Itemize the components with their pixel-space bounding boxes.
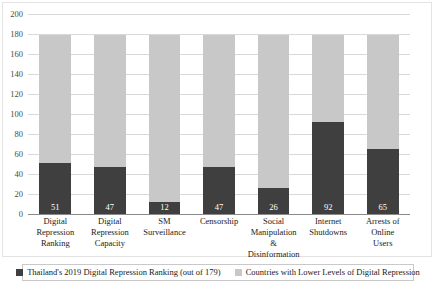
x-axis-label-5: InternetShutdowns (301, 216, 356, 260)
x-axis-label-line: Ranking (29, 238, 82, 249)
x-axis-label-0: DigitalRepressionRanking (28, 216, 83, 260)
bar-segment-lower-repression[interactable] (94, 35, 126, 167)
x-axis-label-line: Users (356, 238, 409, 249)
x-axis-label-line: Shutdowns (302, 227, 355, 238)
bar-slot: 51 (28, 14, 83, 214)
bar-slot: 12 (137, 14, 192, 214)
x-axis-label-line: SM (138, 216, 191, 227)
bar-stack[interactable]: 92 (312, 35, 344, 214)
bar-stack[interactable]: 47 (203, 35, 235, 214)
bar-segment-thailand-ranking[interactable]: 92 (312, 122, 344, 214)
y-axis-tick-100: 100 (10, 110, 23, 119)
bar-segment-lower-repression[interactable] (367, 35, 399, 149)
x-axis-label-line: Social (247, 216, 300, 227)
bar-segment-thailand-ranking[interactable]: 26 (258, 188, 290, 214)
bar-slot: 26 (246, 14, 301, 214)
bar-segment-lower-repression[interactable] (312, 35, 344, 122)
x-axis-label-3: Censorship (192, 216, 247, 260)
bar-segment-thailand-ranking[interactable]: 65 (367, 149, 399, 214)
bar-value-label: 51 (39, 203, 71, 212)
x-axis-label-line: Digital (29, 216, 82, 227)
x-axis-label-4: SocialManipulation &Disinformation (246, 216, 301, 260)
x-axis-label-line: Online (356, 227, 409, 238)
plot-area: 200180160140120100806040200 514712472692… (28, 14, 410, 214)
legend-item-lower-repression: Countries with Lower Levels of Digital R… (235, 268, 420, 277)
bar-segment-thailand-ranking[interactable]: 47 (94, 167, 126, 214)
legend-swatch-icon-light (235, 269, 242, 276)
y-axis-tick-120: 120 (10, 90, 23, 99)
bar-segment-thailand-ranking[interactable]: 47 (203, 167, 235, 214)
bar-slot: 47 (83, 14, 138, 214)
x-axis-label-2: SMSurveillance (137, 216, 192, 260)
bar-value-label: 26 (258, 203, 290, 212)
x-axis-label-line: Manipulation & (247, 227, 300, 249)
bar-stack[interactable]: 12 (149, 35, 181, 214)
legend-label-lower-repression: Countries with Lower Levels of Digital R… (246, 268, 420, 277)
y-axis-tick-140: 140 (10, 70, 23, 79)
y-axis-tick-180: 180 (10, 30, 23, 39)
bar-value-label: 12 (149, 203, 181, 212)
bar-segment-lower-repression[interactable] (39, 35, 71, 163)
bar-stack[interactable]: 65 (367, 35, 399, 214)
y-axis-tick-40: 40 (15, 170, 24, 179)
x-axis-label-line: Repression (29, 227, 82, 238)
y-axis-tick-160: 160 (10, 50, 23, 59)
bar-value-label: 47 (94, 203, 126, 212)
x-axis-label-line: Digital (84, 216, 137, 227)
bar-slot: 65 (355, 14, 410, 214)
x-axis-label-line: Repression (84, 227, 137, 238)
y-axis-tick-0: 0 (19, 210, 23, 219)
x-axis-category-labels: DigitalRepressionRankingDigitalRepressio… (28, 216, 410, 260)
bar-value-label: 92 (312, 203, 344, 212)
x-axis-label-line: Censorship (193, 216, 246, 227)
x-axis-label-line: Arrests of (356, 216, 409, 227)
bar-value-label: 47 (203, 203, 235, 212)
y-axis-tick-200: 200 (10, 10, 23, 19)
legend-item-thailand-ranking: Thailand's 2019 Digital Repression Ranki… (16, 268, 220, 277)
bar-segment-lower-repression[interactable] (203, 35, 235, 167)
legend-label-thailand-ranking: Thailand's 2019 Digital Repression Ranki… (27, 268, 220, 277)
x-axis-line (28, 214, 410, 215)
x-axis-label-line: Surveillance (138, 227, 191, 238)
x-axis-label-line: Internet (302, 216, 355, 227)
bar-slot: 92 (301, 14, 356, 214)
bar-segment-lower-repression[interactable] (149, 35, 181, 202)
bars-layer: 51471247269265 (28, 14, 410, 214)
stacked-bar-chart: 200180160140120100806040200 514712472692… (0, 0, 434, 295)
x-axis-label-1: DigitalRepressionCapacity (83, 216, 138, 260)
bar-value-label: 65 (367, 203, 399, 212)
bar-segment-lower-repression[interactable] (258, 35, 290, 188)
x-axis-label-line: Disinformation (247, 249, 300, 260)
legend-swatch-icon-dark (16, 269, 23, 276)
y-axis-tick-20: 20 (15, 190, 24, 199)
bar-stack[interactable]: 51 (39, 35, 71, 214)
x-axis-label-6: Arrests ofOnlineUsers (355, 216, 410, 260)
bar-stack[interactable]: 47 (94, 35, 126, 214)
x-axis-label-line: Capacity (84, 238, 137, 249)
chart-legend: Thailand's 2019 Digital Repression Ranki… (22, 264, 414, 281)
bar-segment-thailand-ranking[interactable]: 12 (149, 202, 181, 214)
bar-stack[interactable]: 26 (258, 35, 290, 214)
bar-segment-thailand-ranking[interactable]: 51 (39, 163, 71, 214)
y-axis-tick-80: 80 (15, 130, 24, 139)
y-axis-tick-60: 60 (15, 150, 24, 159)
bar-slot: 47 (192, 14, 247, 214)
